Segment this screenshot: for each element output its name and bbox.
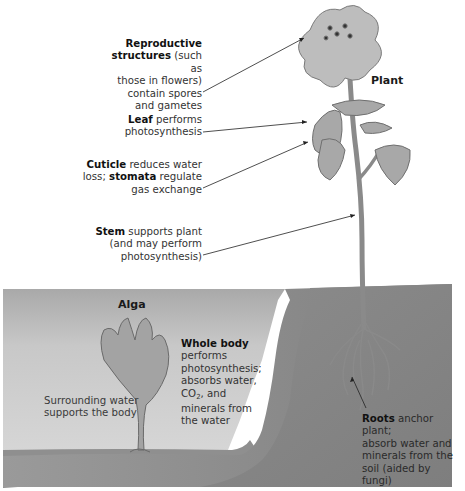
flower — [299, 5, 382, 87]
label-reproductive-structures: Reproductive structures (such as those i… — [100, 38, 202, 112]
alga-title: Alga — [118, 298, 146, 311]
label-surrounding-water: Surrounding water supports the body — [44, 395, 144, 420]
label-whole-body: Whole body performs photosynthesis; abso… — [181, 338, 271, 428]
figure-plant-vs-alga: Plant Alga Reproductive structures (such… — [0, 0, 465, 491]
label-roots: Roots anchor plant; absorb water and min… — [362, 413, 462, 487]
label-leaf: Leaf performs photosynthesis — [100, 114, 202, 139]
plant-title: Plant — [371, 74, 403, 87]
leaves — [313, 100, 411, 185]
label-cuticle-stomata: Cuticle reduces water loss; stomata regu… — [72, 159, 202, 196]
label-stem: Stem supports plant (and may perform pho… — [82, 226, 202, 263]
